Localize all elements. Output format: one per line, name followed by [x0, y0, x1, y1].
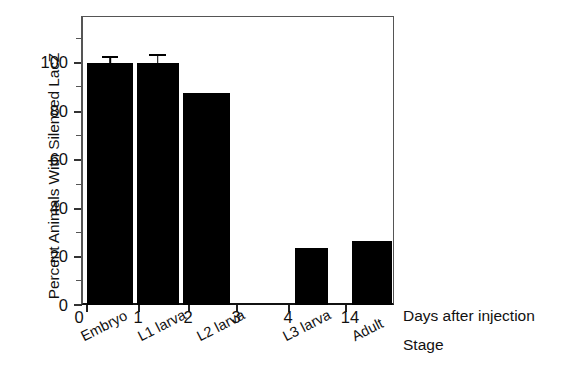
bar-l1-larva[interactable]	[137, 63, 179, 305]
x-tick-label-0: 0	[74, 308, 83, 327]
y-tick-label-0: 0	[59, 296, 68, 315]
x-tick-label-14: 14	[341, 308, 359, 327]
x-tick-label-1: 1	[133, 308, 142, 327]
error-bar-l1-larva	[149, 54, 166, 65]
x-tick-0	[86, 305, 88, 312]
category-label-l1-larva: L1 larva	[135, 307, 188, 345]
days-after-injection-caption: Days after injection	[403, 307, 535, 325]
category-label-embryo: Embryo	[78, 307, 130, 344]
bar-l3-larva[interactable]	[295, 248, 328, 305]
y-tick-label-80: 80	[50, 102, 68, 121]
bar-adult[interactable]	[352, 241, 392, 305]
error-bar-cap	[149, 54, 166, 56]
stage-caption: Stage	[403, 336, 444, 354]
y-tick-label-100: 100	[40, 53, 68, 72]
bar-chart-figure: Percent Animals With Silenced LacZ 100 8…	[0, 0, 569, 384]
y-tick-label-40: 40	[50, 199, 68, 218]
plot-area	[81, 16, 394, 305]
y-tick-label-60: 60	[50, 150, 68, 169]
error-bar-cap	[102, 56, 118, 58]
error-bar-embryo	[102, 56, 118, 65]
bar-embryo[interactable]	[87, 63, 133, 305]
bar-l2-larva[interactable]	[183, 93, 230, 305]
y-tick-label-20: 20	[50, 247, 68, 266]
